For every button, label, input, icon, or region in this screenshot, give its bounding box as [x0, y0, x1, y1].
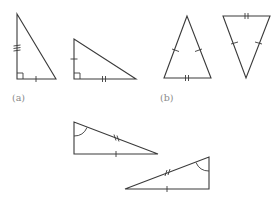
triangle-outline — [164, 16, 211, 78]
right-triangle-a2 — [71, 39, 137, 82]
isosceles-triangle-b1 — [164, 16, 211, 81]
triangle-outline — [17, 14, 56, 79]
label-b: (b) — [160, 92, 174, 103]
isosceles-triangle-b2-inverted — [223, 13, 270, 78]
triangle-outline — [223, 16, 270, 78]
group-b: (b) — [160, 13, 270, 103]
right-angle-mark — [17, 73, 23, 79]
right-angle-mark — [74, 73, 80, 79]
angle-arc-mark — [196, 163, 209, 172]
angle-arc-mark — [74, 128, 87, 137]
right-triangle-c1 — [74, 122, 158, 157]
triangle-outline — [125, 157, 209, 189]
group-a: (a) — [12, 14, 136, 103]
triple-tick-mark — [14, 45, 21, 51]
single-tick-mark-left — [231, 42, 238, 44]
single-tick-mark-left — [172, 49, 179, 52]
right-triangle-c2 — [125, 157, 209, 192]
triangle-outline — [74, 39, 136, 79]
right-triangle-a1 — [14, 14, 57, 82]
single-tick-mark-right — [255, 42, 262, 44]
label-a: (a) — [12, 92, 25, 103]
triangle-congruence-diagram: (a) (b) — [0, 0, 276, 200]
triangle-outline — [74, 122, 158, 154]
group-c — [74, 122, 209, 192]
